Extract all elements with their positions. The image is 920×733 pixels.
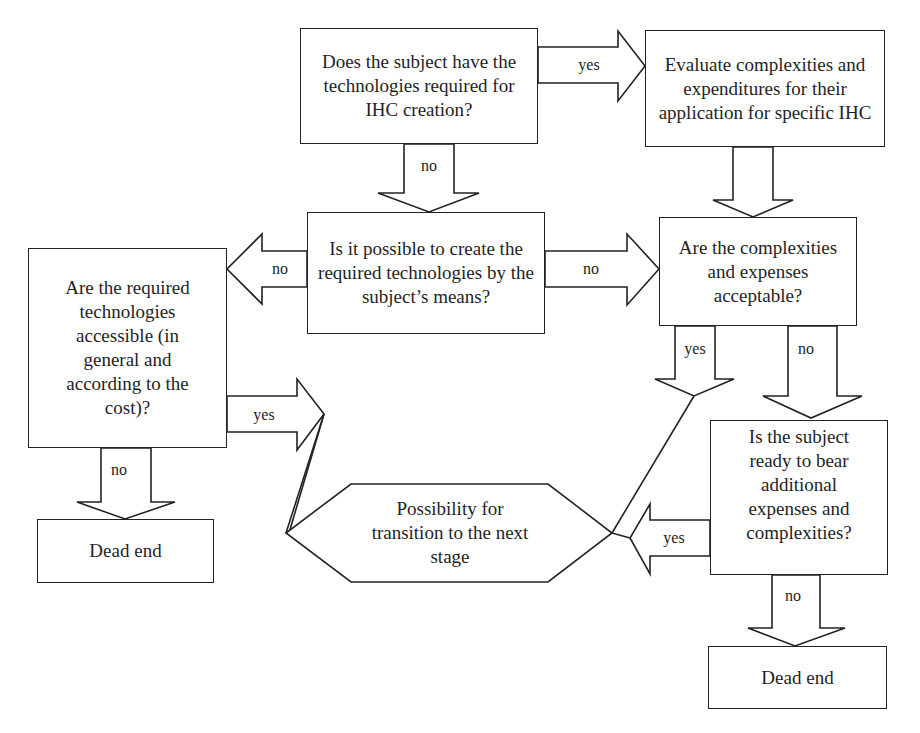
node-evaluate: Evaluate complexities and expenditures f…	[645, 30, 885, 147]
node-has-technologies: Does the subject have the technologies r…	[300, 28, 538, 144]
arrow-down-icon	[378, 144, 479, 212]
edge-label-no: no	[414, 157, 444, 175]
node-dead-end-right: Dead end	[708, 646, 887, 709]
connector-line	[612, 533, 630, 538]
arrow-down-icon	[748, 575, 845, 646]
arrow-down-icon	[655, 326, 734, 396]
node-ready-to-bear: Is the subject ready to bear additional …	[710, 420, 888, 575]
edge-label-yes: yes	[680, 340, 710, 358]
edge-label-no: no	[791, 340, 821, 358]
edge-label-yes: yes	[659, 529, 689, 547]
edge-label-no: no	[778, 587, 808, 605]
edge-label-no: no	[104, 461, 134, 479]
edge-label-yes: yes	[574, 56, 604, 74]
node-transition: Possibility for transition to the next s…	[360, 484, 540, 582]
edge-label-no: no	[265, 260, 295, 278]
node-accessible: Are the required technologies accessible…	[28, 248, 227, 448]
edge-label-yes: yes	[249, 406, 279, 424]
edge-label-no: no	[576, 260, 606, 278]
flowchart: Does the subject have the technologies r…	[0, 0, 920, 733]
arrow-down-icon	[77, 448, 175, 519]
node-acceptable: Are the complexities and expenses accept…	[659, 217, 857, 326]
connector-line	[612, 396, 694, 533]
node-dead-end-left: Dead end	[37, 519, 214, 583]
arrow-down-icon	[713, 147, 793, 217]
node-possible-create: Is it possible to create the required te…	[307, 212, 545, 334]
